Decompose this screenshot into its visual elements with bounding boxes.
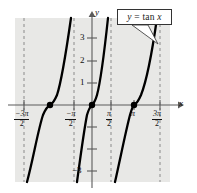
x-tick-label-pi: π bbox=[131, 110, 135, 118]
point-neg-pi bbox=[47, 102, 53, 108]
legend-callout-box: y = tan x bbox=[117, 9, 172, 25]
x-tick-label-pi-over-2: π 2 bbox=[106, 110, 112, 129]
fraction-3pi-over-2: 3π 2 bbox=[152, 110, 162, 128]
fraction-neg-pi-over-2: −π 2 bbox=[65, 110, 76, 128]
fraction-numerator: π bbox=[106, 110, 112, 118]
x-axis-label: x bbox=[179, 99, 183, 108]
tangent-function-graph: y = tan x x y 3 2 1 −3 −3π 2 −π 2 π 2 π … bbox=[0, 0, 197, 193]
fraction-denominator: 2 bbox=[14, 120, 29, 128]
graph-vector-layer bbox=[0, 0, 197, 193]
y-tick-label-2: 2 bbox=[80, 56, 85, 65]
fraction-denominator: 2 bbox=[152, 120, 162, 128]
x-tick-label-3pi-over-2: 3π 2 bbox=[152, 110, 162, 129]
y-tick-label-neg-3: −3 bbox=[72, 166, 82, 175]
fraction-numerator: 3π bbox=[152, 110, 162, 118]
point-origin bbox=[89, 102, 95, 108]
point-pi bbox=[131, 102, 137, 108]
x-tick-label-neg-3pi-over-2: −3π 2 bbox=[14, 110, 29, 129]
fraction-numerator: −3π bbox=[14, 110, 29, 118]
x-tick-label-neg-pi-over-2: −π 2 bbox=[65, 110, 76, 129]
fraction-numerator: −π bbox=[65, 110, 76, 118]
fraction-denominator: 2 bbox=[106, 120, 112, 128]
tan-branch-left bbox=[27, 18, 71, 182]
legend-variable: x bbox=[155, 12, 162, 22]
fraction-neg-3pi-over-2: −3π 2 bbox=[14, 110, 29, 128]
y-tick-label-1: 1 bbox=[80, 78, 85, 87]
fraction-pi-over-2: π 2 bbox=[106, 110, 112, 128]
tan-branch-right bbox=[115, 18, 157, 182]
fraction-denominator: 2 bbox=[65, 120, 76, 128]
y-axis-label: y bbox=[95, 8, 99, 17]
legend-label: y = tan x bbox=[127, 12, 161, 22]
legend-function-name: tan bbox=[142, 12, 154, 22]
legend-equals: = bbox=[132, 12, 143, 22]
y-tick-label-3: 3 bbox=[80, 33, 85, 42]
